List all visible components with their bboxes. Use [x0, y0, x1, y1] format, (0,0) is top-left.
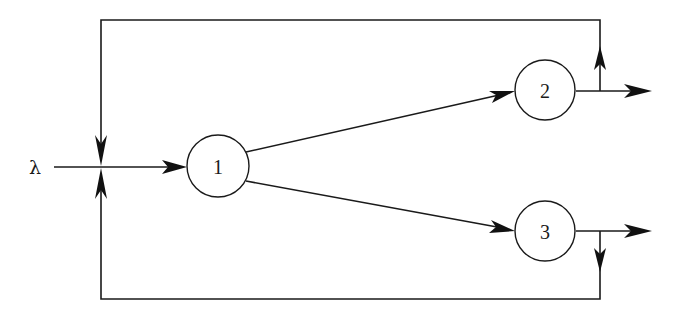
node-2-label: 2	[540, 80, 550, 102]
queueing-network-diagram: λ 1 2	[0, 0, 679, 320]
routing-edge-1-to-2	[246, 91, 515, 152]
node-3: 3	[515, 201, 575, 261]
node-1-label: 1	[213, 156, 223, 178]
node-3-label: 3	[540, 221, 550, 243]
routing-edge-1-to-3	[246, 181, 515, 233]
arrival-edge	[54, 160, 187, 174]
node-1: 1	[187, 135, 249, 197]
node-2: 2	[515, 60, 575, 120]
arrival-rate-label: λ	[29, 156, 41, 178]
departure-edge-2	[576, 84, 652, 98]
departure-edge-3	[576, 224, 652, 238]
